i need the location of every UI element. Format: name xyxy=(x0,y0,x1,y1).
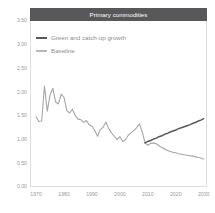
x-tick-label: 1970 xyxy=(30,191,42,197)
y-tick-label: 0.00 xyxy=(17,183,27,189)
legend-label-green-and-catch-up-growth: Green and catch-up growth xyxy=(51,34,127,41)
y-tick-label: 1.00 xyxy=(17,136,27,142)
x-tick-label: 2010 xyxy=(142,191,154,197)
chart-background xyxy=(0,0,215,213)
legend-label-baseline: Baseline xyxy=(51,47,75,54)
y-tick-label: 0.50 xyxy=(17,160,27,166)
chart-title: Primary commodities xyxy=(90,11,148,18)
x-tick-label: 2020 xyxy=(170,191,182,197)
x-tick-label: 1980 xyxy=(58,191,70,197)
chart-title-bar: Primary commodities xyxy=(30,8,207,21)
x-tick-label: 2030 xyxy=(198,191,210,197)
y-tick-label: 3.00 xyxy=(17,41,27,47)
x-tick-label: 1990 xyxy=(86,191,98,197)
primary-commodities-line-chart: 0.000.501.001.502.002.503.003.50 1970198… xyxy=(0,0,215,213)
y-tick-label: 2.00 xyxy=(17,89,27,95)
y-tick-label: 3.50 xyxy=(17,17,27,23)
y-tick-label: 1.50 xyxy=(17,112,27,118)
x-tick-label: 2000 xyxy=(114,191,126,197)
y-tick-label: 2.50 xyxy=(17,65,27,71)
chart-container: 0.000.501.001.502.002.503.003.50 1970198… xyxy=(0,0,215,213)
